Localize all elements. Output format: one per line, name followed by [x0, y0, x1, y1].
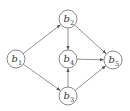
node-b1: b1	[7, 50, 25, 68]
edge-b2-to-b5	[75, 25, 106, 54]
node-b2: b2	[59, 10, 77, 28]
edge-b3-to-b5	[75, 66, 106, 90]
edge-b1-to-b2	[23, 25, 60, 54]
directed-graph: b1b2b3b4b5	[0, 0, 130, 111]
nodes-layer: b1b2b3b4b5	[7, 10, 122, 105]
edge-b1-to-b3	[23, 64, 60, 90]
node-b3: b3	[59, 87, 77, 105]
edge-b4-to-b5	[77, 59, 104, 60]
node-b5: b5	[104, 51, 122, 69]
node-b4: b4	[59, 50, 77, 68]
